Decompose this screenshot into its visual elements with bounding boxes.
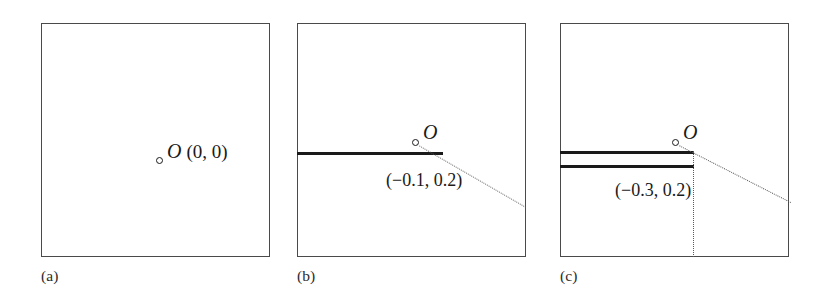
dotted-vertical-c xyxy=(693,151,694,257)
origin-letter-a: O xyxy=(167,140,181,162)
panel-caption-b: (b) xyxy=(297,268,315,284)
origin-coords-a: (0, 0) xyxy=(186,141,227,162)
origin-label-a: O(0, 0) xyxy=(167,141,228,161)
coord-label-c: (−0.3, 0.2) xyxy=(615,181,691,199)
panel-a: O(0, 0) xyxy=(41,23,270,257)
panel-c: O (−0.3, 0.2) xyxy=(560,23,789,257)
panel-caption-c: (c) xyxy=(560,268,578,284)
origin-point-marker-b xyxy=(412,139,419,146)
crack-segment-c-2 xyxy=(560,165,694,168)
panel-caption-a: (a) xyxy=(41,268,59,284)
coord-label-b: (−0.1, 0.2) xyxy=(386,171,462,189)
crack-segment-b-1 xyxy=(297,152,443,155)
origin-label-c: O xyxy=(683,122,697,142)
crack-segment-c-1 xyxy=(560,151,694,154)
origin-label-b: O xyxy=(423,122,437,142)
figure-container: O(0, 0) (a) O (−0.1, 0.2) (b) O (−0.3, xyxy=(0,0,821,307)
origin-point-marker-a xyxy=(156,157,163,164)
panel-a-frame xyxy=(41,23,270,257)
panel-b: O (−0.1, 0.2) xyxy=(297,23,526,257)
origin-point-marker-c xyxy=(672,139,679,146)
